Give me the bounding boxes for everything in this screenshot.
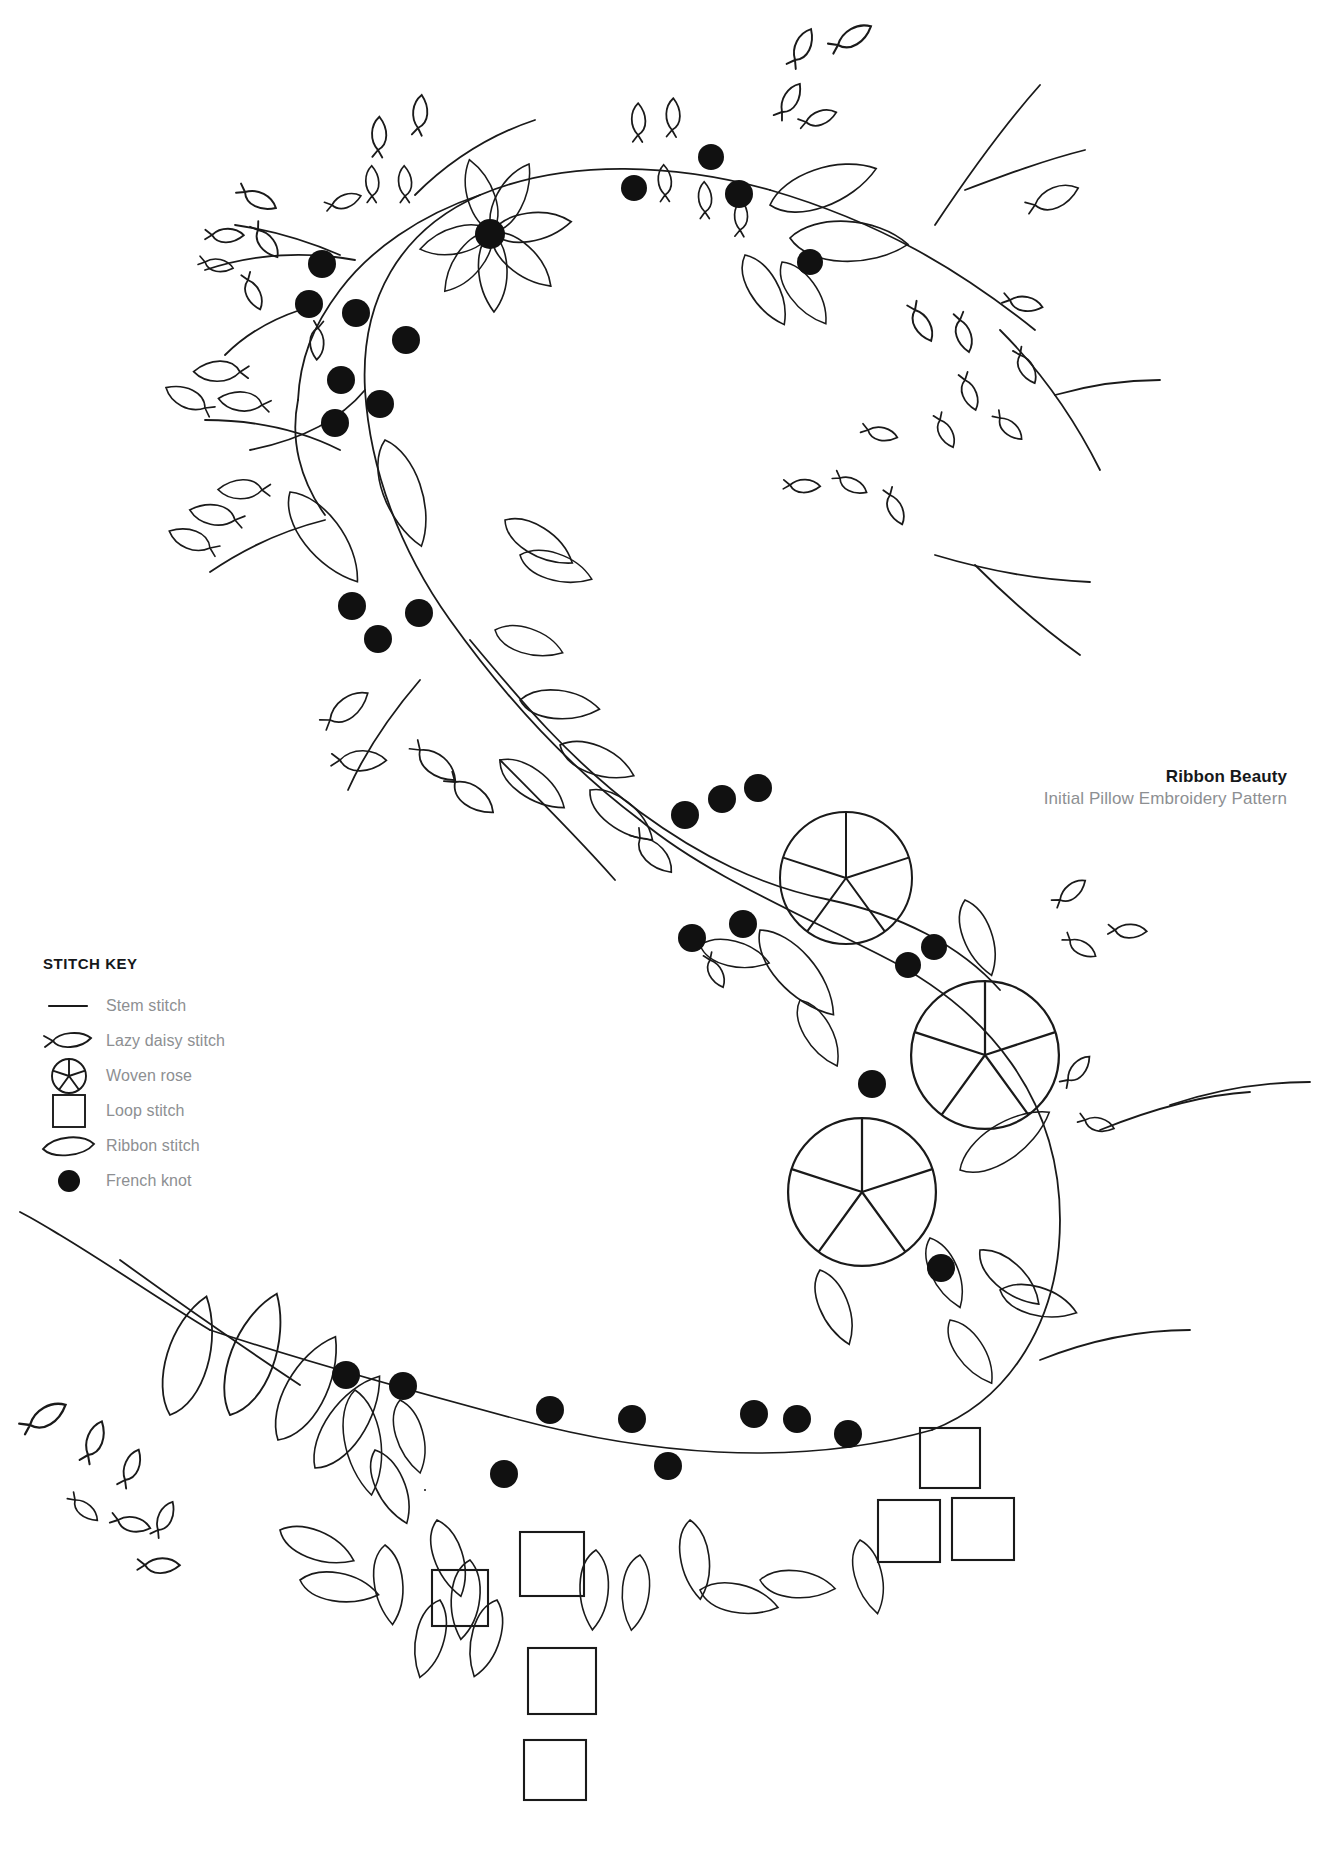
stitch-key-item-french-knot: French knot xyxy=(43,1163,225,1198)
french-knot-icon xyxy=(43,1164,95,1198)
stitch-key-item-ribbon-stitch: Ribbon stitch xyxy=(43,1128,225,1163)
ribbon-stitch-icon xyxy=(43,1129,95,1163)
loop-stitch-icon xyxy=(43,1094,95,1128)
stitch-key-label: Lazy daisy stitch xyxy=(106,1032,225,1050)
stem-stitch-icon xyxy=(43,989,95,1023)
pattern-artwork xyxy=(0,0,1327,1876)
stitch-key-item-loop-stitch: Loop stitch xyxy=(43,1093,225,1128)
stitch-key: STITCH KEY Stem stitch Lazy daisy stitch xyxy=(43,955,225,1198)
stitch-key-heading: STITCH KEY xyxy=(43,955,225,972)
pattern-sheet: Ribbon Beauty Initial Pillow Embroidery … xyxy=(0,0,1327,1876)
stitch-key-label: French knot xyxy=(106,1172,192,1190)
stitch-key-item-woven-rose: Woven rose xyxy=(43,1058,225,1093)
stitch-key-label: Loop stitch xyxy=(106,1102,184,1120)
lazy-daisy-icon xyxy=(43,1024,95,1058)
woven-rose-icon xyxy=(43,1059,95,1093)
pattern-subtitle: Initial Pillow Embroidery Pattern xyxy=(1044,788,1287,810)
pattern-title: Ribbon Beauty xyxy=(1044,766,1287,788)
stitch-key-label: Stem stitch xyxy=(106,997,186,1015)
stitch-key-label: Woven rose xyxy=(106,1067,192,1085)
stitch-key-item-lazy-daisy-stitch: Lazy daisy stitch xyxy=(43,1023,225,1058)
stitch-key-item-stem-stitch: Stem stitch xyxy=(43,988,225,1023)
title-block: Ribbon Beauty Initial Pillow Embroidery … xyxy=(1044,766,1287,810)
stitch-key-label: Ribbon stitch xyxy=(106,1137,200,1155)
